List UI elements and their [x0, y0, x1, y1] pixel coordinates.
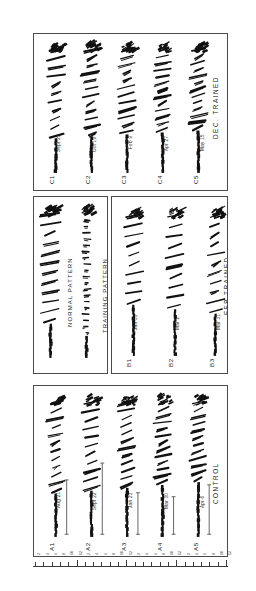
row-label-c4: C4 [156, 175, 163, 184]
ruler-tick-label: 4 [145, 553, 149, 555]
row-date-a5: Apr 6 [200, 496, 205, 508]
ruler-tick [185, 562, 186, 566]
row-date-c5: May 15 [200, 134, 205, 151]
ruler-tick-label: 2 [137, 553, 141, 555]
ruler-tick-major [126, 560, 127, 566]
ruler-tick-label: 2 [187, 553, 191, 555]
panel-pattern-legend: NORMAL PATTERN TRAINING PATTERN [33, 196, 108, 374]
ruler-tick [151, 562, 152, 566]
row-label-b3: B3 [208, 358, 215, 367]
ruler-tick [60, 562, 61, 566]
time-scale-ruler: 24681012246810122468101224681012 [33, 562, 228, 574]
row-date-a2: Sept 22 [92, 492, 97, 510]
ruler-tick-label: 12 [228, 551, 232, 555]
row-date-b1: Jan 31 [133, 314, 138, 330]
ruler-tick-label: 6 [104, 553, 108, 555]
ruler-tick [52, 562, 53, 566]
ruler-tick [101, 562, 102, 566]
ruler-tick-major [226, 560, 227, 566]
ruler-tick-label: 4 [46, 553, 50, 555]
ruler-tick [110, 562, 111, 566]
row-date-c3: Feb 9 [128, 136, 133, 149]
ruler-tick [168, 562, 169, 566]
row-label-b1: B1 [125, 358, 132, 367]
row-label-b2: B2 [167, 358, 174, 367]
panel-dec-trained: C1 Sept 23 C2 Oct 19 C3 Feb 9 C4 Apr 27 … [33, 33, 228, 191]
ruler-tick-label: 12 [79, 551, 83, 555]
ruler-baseline [33, 566, 228, 567]
group-caption-control: CONTROL [212, 462, 219, 504]
ruler-tick-label: 2 [37, 553, 41, 555]
legend-normal-pattern: NORMAL PATTERN [67, 257, 73, 327]
panel-c-traces [34, 34, 227, 190]
row-date-b2: Mar 2 [175, 317, 180, 330]
ruler-tick [218, 562, 219, 566]
ruler-tick [85, 562, 86, 566]
ruler-tick-label: 10 [220, 551, 224, 555]
ruler-tick [43, 562, 44, 566]
row-label-a3: A3 [120, 542, 127, 551]
row-date-a3: Jan 23 [128, 492, 133, 508]
ruler-tick-label: 4 [195, 553, 199, 555]
ruler-tick-label: 10 [170, 551, 174, 555]
ruler-tick-label: 8 [112, 553, 116, 555]
ruler-tick [160, 562, 161, 566]
row-date-a1: Aug 21 [56, 492, 61, 508]
row-label-a2: A2 [84, 542, 91, 551]
ruler-tick [68, 562, 69, 566]
ruler-tick [193, 562, 194, 566]
row-label-a4: A4 [156, 542, 163, 551]
ruler-tick-label: 12 [129, 551, 133, 555]
ruler-tick-label: 6 [54, 553, 58, 555]
ruler-tick-label: 8 [212, 553, 216, 555]
ruler-tick-label: 2 [87, 553, 91, 555]
ruler-tick-label: 10 [70, 551, 74, 555]
row-label-c1: C1 [48, 175, 55, 184]
ruler-tick-label: 6 [154, 553, 158, 555]
ruler-tick-label: 12 [178, 551, 182, 555]
panel-feb-trained: B1 Jan 31 B2 Mar 2 B3 Mar 31 FEB TRAINED [111, 196, 228, 374]
ruler-tick-major [176, 560, 177, 566]
row-date-c1: Sept 23 [56, 134, 61, 152]
ruler-tick [143, 562, 144, 566]
ruler-tick [35, 562, 36, 566]
group-caption-dec-trained: DEC. TRAINED [212, 76, 219, 139]
ruler-tick-major [77, 560, 78, 566]
panel-control: A1 Aug 21 A2 Sept 22 A3 Jan 23 A4 Mar 30… [33, 385, 228, 557]
row-date-b3: Mar 31 [216, 314, 221, 330]
ruler-tick [209, 562, 210, 566]
ruler-tick [118, 562, 119, 566]
ruler-tick-label: 4 [95, 553, 99, 555]
group-caption-feb-trained: FEB TRAINED [223, 256, 228, 315]
panel-b-traces [112, 197, 227, 373]
ruler-tick-label: 10 [120, 551, 124, 555]
ruler-tick [201, 562, 202, 566]
ruler-tick-label: 6 [203, 553, 207, 555]
row-label-a1: A1 [48, 542, 55, 551]
ruler-tick-label: 8 [162, 553, 166, 555]
ruler-tick-label: 8 [62, 553, 66, 555]
panel-a-traces [34, 386, 227, 556]
legend-training-pattern: TRAINING PATTERN [102, 258, 108, 333]
row-date-c2: Oct 19 [92, 137, 97, 152]
row-label-a5: A5 [192, 542, 199, 551]
ruler-tick [93, 562, 94, 566]
row-date-a4: Mar 30 [164, 493, 169, 509]
row-date-c4: Apr 27 [164, 136, 169, 151]
row-label-c3: C3 [120, 175, 127, 184]
ruler-tick [135, 562, 136, 566]
row-label-c2: C2 [84, 175, 91, 184]
figure-root: C1 Sept 23 C2 Oct 19 C3 Feb 9 C4 Apr 27 … [0, 0, 256, 591]
row-label-c5: C5 [192, 175, 199, 184]
